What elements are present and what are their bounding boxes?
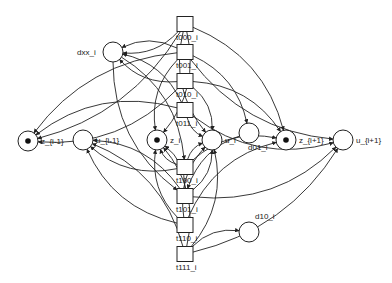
arc-t111-d10_i — [192, 230, 239, 246]
place-dxx_i[interactable]: dxx_i — [77, 42, 123, 62]
transition-t010[interactable]: t010_i — [176, 74, 198, 99]
arc-t001-dxx_i — [122, 41, 177, 48]
arc-t010-z_ip1 — [193, 82, 281, 132]
place-label: z_{i+1} — [299, 136, 324, 145]
place-label: u_i — [225, 136, 236, 145]
petri-net-diagram: z_{i-1}u_{i-1}z_iu_id01_iz_{i+1}u_{i+1}d… — [0, 0, 392, 283]
arc-t100-u_i — [188, 143, 203, 159]
arc-t110-u_im1 — [87, 149, 177, 223]
transition-label: t110_i — [176, 234, 197, 243]
place-u_i[interactable]: u_i — [202, 130, 236, 150]
transition-label: t010_i — [176, 90, 198, 99]
transition-label: t101_i — [176, 205, 198, 214]
place-u_ip1[interactable]: u_{i+1} — [333, 130, 381, 150]
transition-label: t000_i — [176, 33, 198, 42]
arc-t011-dxx_i — [123, 54, 182, 102]
token-icon — [25, 138, 31, 144]
transition-t111[interactable]: t111_i — [176, 247, 197, 272]
arc-t110-z_i — [155, 150, 178, 218]
place-label: dxx_i — [77, 48, 96, 57]
arc-t111-u_im1 — [92, 144, 183, 247]
transition-label: t100_i — [176, 176, 198, 185]
arc-t001-d01_i — [193, 56, 247, 123]
arc-t101-u_ip1 — [193, 147, 336, 198]
place-label: d10_i — [255, 212, 275, 221]
place-label: u_{i-1} — [96, 136, 119, 145]
token-icon — [154, 137, 160, 143]
transition-t000[interactable]: t000_i — [176, 17, 198, 42]
arc-t001-z_im1 — [34, 53, 177, 133]
transition-t011[interactable]: t011_i — [176, 103, 197, 128]
place-d01_i[interactable]: d01_i — [239, 123, 268, 152]
place-u_im1[interactable]: u_{i-1} — [73, 130, 119, 150]
place-label: z_{i-1} — [41, 137, 64, 146]
place-label: u_{i+1} — [356, 136, 381, 145]
transition-label: t001_i — [176, 61, 198, 70]
transition-t110[interactable]: t110_i — [176, 218, 197, 243]
place-z_i[interactable]: z_i — [147, 130, 180, 150]
place-z_im1[interactable]: z_{i-1} — [18, 131, 64, 151]
transition-label: t011_i — [176, 119, 197, 128]
place-label: z_i — [170, 136, 180, 145]
transition-t101[interactable]: t101_i — [176, 189, 198, 214]
token-icon — [283, 137, 289, 143]
place-label: d01_i — [248, 143, 268, 152]
arc-t000-dxx_i — [123, 32, 178, 54]
transition-label: t111_i — [176, 263, 197, 272]
place-d10_i[interactable]: d10_i — [239, 212, 275, 242]
